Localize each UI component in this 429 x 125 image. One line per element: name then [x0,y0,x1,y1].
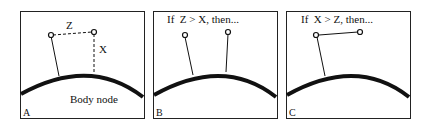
node-2 [358,30,363,35]
body-node-label: Body node [70,93,118,105]
figure-canvas: Z X Body node A If Z > X, then... B If X… [0,0,429,125]
node-2 [226,30,231,35]
x-label: X [99,43,107,55]
panel-c-frame [287,12,411,119]
panel-c: If X > Z, then... C [287,12,411,119]
z-label: Z [66,19,73,31]
panel-b-frame [154,12,278,119]
panel-a: Z X Body node A [21,12,145,119]
node-1 [183,33,188,38]
panel-b-letter: B [156,107,163,118]
node-1 [49,33,54,38]
panel-a-letter: A [23,107,31,118]
panel-b-caption: If Z > X, then... [167,13,239,25]
panel-b: If Z > X, then... B [154,12,278,119]
panel-c-caption: If X > Z, then... [301,13,373,25]
panel-c-letter: C [289,107,296,118]
node-2 [92,30,97,35]
node-1 [314,33,319,38]
